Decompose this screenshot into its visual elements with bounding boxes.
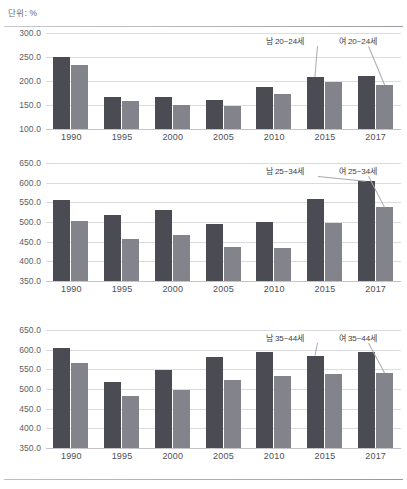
y-tick-label: 400.0 [19,256,41,266]
x-axis-labels: 1990199520002005201020152017 [46,132,401,142]
y-tick-label: 500.0 [19,217,41,227]
y-axis-labels: 300.0250.0200.0150.0100.0 [0,33,44,129]
bar-female [173,235,190,281]
gridline [46,281,401,282]
y-tick-label: 550.0 [19,364,41,374]
y-tick-label: 100.0 [19,124,41,134]
bar-groups [46,163,401,281]
bar-group [249,163,300,281]
bar-group [198,163,249,281]
x-tick-label: 2017 [350,451,401,461]
bar-group [147,163,198,281]
bar-group [97,33,148,129]
y-axis-labels: 650.0600.0550.0500.0450.0400.0350.0 [0,163,44,281]
bar-male [358,76,375,129]
bar-groups [46,330,401,448]
x-tick-label: 1995 [97,284,148,294]
bar-group [350,33,401,129]
x-tick-label: 1990 [46,451,97,461]
bar-female [376,85,393,129]
x-tick-label: 2000 [147,132,198,142]
bar-male [104,97,121,129]
x-tick-label: 1990 [46,132,97,142]
series-annotation: 남 35~44세 [266,332,304,343]
x-tick-label: 2005 [198,284,249,294]
x-tick-label: 2015 [300,284,351,294]
bar-group [97,330,148,448]
bar-female [376,207,393,281]
y-tick-label: 450.0 [19,237,41,247]
y-tick-label: 350.0 [19,443,41,453]
bar-group [46,330,97,448]
bar-male [53,57,70,129]
bar-group [249,330,300,448]
bar-male [206,100,223,129]
bar-female [173,105,190,129]
bar-male [53,200,70,281]
chart-25-34: 650.0600.0550.0500.0450.0400.0350.0 남 25… [0,163,407,306]
x-tick-label: 2010 [249,451,300,461]
bar-female [224,247,241,281]
x-tick-label: 2017 [350,284,401,294]
bar-male [307,356,324,448]
bar-male [206,357,223,448]
bar-group [300,330,351,448]
bar-male [256,222,273,281]
bar-male [307,77,324,129]
bar-female [376,373,393,448]
y-tick-label: 200.0 [19,76,41,86]
bar-female [274,376,291,448]
bar-female [274,94,291,129]
bar-female [122,396,139,448]
bar-group [300,163,351,281]
x-axis-labels: 1990199520002005201020152017 [46,284,401,294]
x-tick-label: 2015 [300,451,351,461]
bar-male [358,181,375,281]
bar-male [104,382,121,448]
header-divider [4,26,403,27]
chart-page: 단위: % 300.0250.0200.0150.0100.0 남 20~24세… [0,0,407,489]
bar-group [97,163,148,281]
bar-male [307,199,324,281]
bar-female [173,390,190,448]
series-annotation: 남 25~34세 [266,165,304,176]
footer-divider [4,479,403,480]
bar-male [206,224,223,281]
x-tick-label: 1995 [97,451,148,461]
bar-group [147,33,198,129]
bar-female [71,363,88,448]
bar-male [53,348,70,448]
bar-group [300,33,351,129]
x-axis-labels: 1990199520002005201020152017 [46,451,401,461]
y-tick-label: 600.0 [19,345,41,355]
bar-group [46,33,97,129]
x-tick-label: 1990 [46,284,97,294]
bar-male [155,97,172,129]
series-annotation: 여 35~44세 [339,332,377,343]
series-annotation: 여 25~34세 [339,165,377,176]
bar-female [122,101,139,129]
plot-area: 남 20~24세여 20~24세 [46,33,401,129]
y-tick-label: 300.0 [19,28,41,38]
plot-area: 남 35~44세여 35~44세 [46,330,401,448]
bar-male [256,352,273,448]
bar-male [256,87,273,129]
y-tick-label: 550.0 [19,197,41,207]
y-tick-label: 600.0 [19,178,41,188]
y-tick-label: 150.0 [19,100,41,110]
x-tick-label: 2005 [198,132,249,142]
bar-male [155,370,172,448]
y-tick-label: 650.0 [19,325,41,335]
bar-groups [46,33,401,129]
bar-female [325,374,342,448]
chart-35-44: 650.0600.0550.0500.0450.0400.0350.0 남 35… [0,330,407,473]
x-tick-label: 2010 [249,284,300,294]
plot-area: 남 25~34세여 25~34세 [46,163,401,281]
bar-female [71,221,88,281]
gridline [46,129,401,130]
bar-female [224,106,241,129]
x-tick-label: 1995 [97,132,148,142]
gridline [46,448,401,449]
x-tick-label: 2005 [198,451,249,461]
x-tick-label: 2015 [300,132,351,142]
